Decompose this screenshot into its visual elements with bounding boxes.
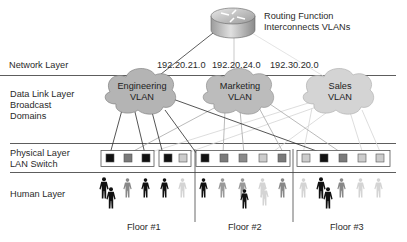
vlan-sales-name: Sales — [310, 81, 370, 92]
vlan-sales-label: Sales VLAN — [310, 81, 370, 103]
floor-3-label: Floor #3 — [330, 222, 364, 232]
physical-layer-label-line2: LAN Switch — [10, 159, 58, 171]
router-label-line2: Interconnects VLANs — [264, 22, 350, 34]
subnet-sales: 192.30.20.0 — [270, 60, 319, 70]
vlan-engineering-suffix: VLAN — [112, 92, 172, 103]
switch-ports — [106, 154, 384, 162]
vlan-sales-suffix: VLAN — [310, 92, 370, 103]
vlan-marketing-label: Marketing VLAN — [210, 81, 270, 103]
router-icon — [211, 8, 255, 38]
subnet-engineering: 192.20.21.0 — [157, 60, 206, 70]
vlan-diagram — [0, 0, 407, 242]
vlan-marketing-name: Marketing — [210, 81, 270, 92]
datalink-layer-label-line2: Broadcast — [10, 100, 51, 112]
router-label-line1: Routing Function — [264, 11, 333, 23]
datalink-layer-label-line1: Data Link Layer — [10, 89, 74, 101]
people — [99, 177, 382, 208]
network-layer-label: Network Layer — [9, 60, 68, 72]
vlan-marketing-suffix: VLAN — [210, 92, 270, 103]
floor-2-label: Floor #2 — [228, 222, 262, 232]
vlan-engineering-name: Engineering — [112, 81, 172, 92]
physical-layer-label-line1: Physical Layer — [10, 148, 70, 160]
floor-1-label: Floor #1 — [127, 222, 161, 232]
datalink-layer-label-line3: Domains — [10, 111, 46, 123]
human-layer-label: Human Layer — [10, 189, 65, 201]
vlan-engineering-label: Engineering VLAN — [112, 81, 172, 103]
subnet-marketing: 192.20.24.0 — [212, 60, 261, 70]
